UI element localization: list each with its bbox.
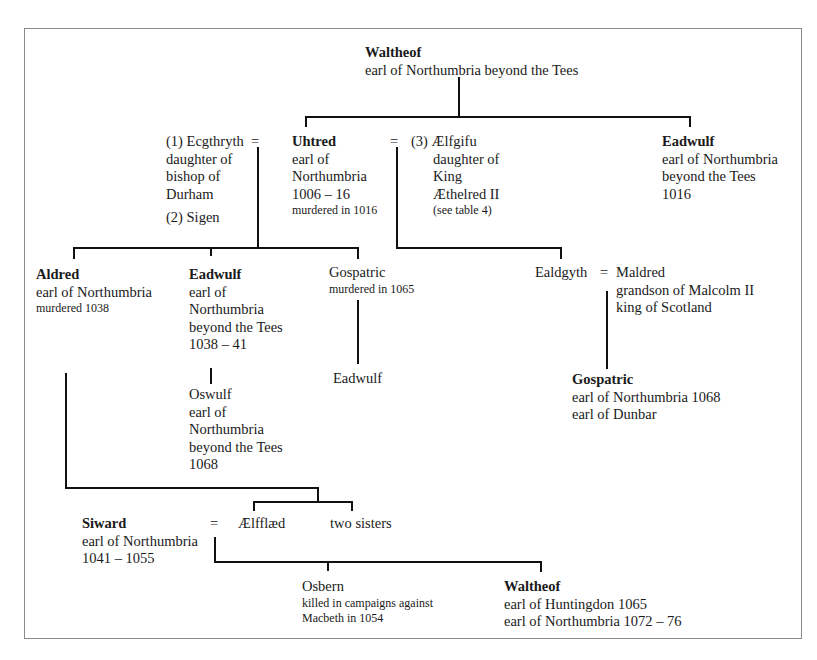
line-to-aelfflaed — [253, 501, 255, 511]
node-two-sisters: two sisters — [330, 515, 392, 533]
person-detail: earl of Northumbria — [662, 151, 778, 169]
node-gospatric-1068: Gospatric earl of Northumbria 1068 earl … — [572, 371, 721, 424]
person-detail: Northumbria — [189, 421, 283, 439]
line-aldred-children — [65, 373, 67, 489]
person-detail: beyond the Tees — [662, 168, 778, 186]
person-name: Maldred — [616, 264, 754, 282]
node-osbern: Osbern killed in campaigns against Macbe… — [302, 578, 433, 626]
node-waltheof-2: Waltheof earl of Huntingdon 1065 earl of… — [504, 578, 682, 631]
person-name: two sisters — [330, 515, 392, 533]
person-name: Osbern — [302, 578, 433, 596]
node-waltheof-root: Waltheof earl of Northumbria beyond the … — [365, 44, 578, 79]
node-oswulf: Oswulf earl of Northumbria beyond the Te… — [189, 386, 283, 474]
marriage-symbol: = — [390, 133, 398, 151]
person-detail: earl of — [292, 151, 377, 169]
person-detail: 1006 – 16 — [292, 186, 377, 204]
line-ecgthryth-children — [257, 147, 259, 249]
node-gospatric-1065: Gospatric murdered in 1065 — [329, 264, 414, 297]
person-detail: earl of Huntingdon 1065 — [504, 596, 682, 614]
node-uhtred: Uhtred earl of Northumbria 1006 – 16 mur… — [292, 133, 377, 218]
line-to-gospatric-1065 — [357, 247, 359, 259]
person-name: (1) Ecgthryth — [166, 133, 244, 151]
person-title: earl of Northumbria beyond the Tees — [365, 62, 578, 80]
person-name: Waltheof — [365, 44, 578, 62]
person-name: Eadwulf — [333, 370, 382, 388]
person-detail: earl of Dunbar — [572, 406, 721, 424]
person-detail: earl of — [189, 404, 283, 422]
person-detail: earl of Northumbria — [36, 284, 152, 302]
node-ecgthryth: (1) Ecgthryth daughter of bishop of Durh… — [166, 133, 244, 227]
node-eadwulf-1038: Eadwulf earl of Northumbria beyond the T… — [189, 266, 283, 354]
node-aldred: Aldred earl of Northumbria murdered 1038 — [36, 266, 152, 316]
line-siward-children — [214, 537, 216, 563]
line-siward-bar — [214, 561, 542, 563]
person-detail: 1038 – 41 — [189, 336, 283, 354]
person-detail: king of Scotland — [616, 299, 754, 317]
line-root-down — [458, 77, 460, 118]
line-to-uhtred — [305, 116, 307, 127]
person-name: Ælfflæd — [238, 515, 285, 533]
line-aelfgifu-bar — [396, 247, 562, 249]
line-to-waltheof-2 — [540, 561, 542, 572]
node-eadwulf-son: Eadwulf — [333, 370, 382, 388]
line-gen1-bar — [305, 116, 691, 118]
person-detail: Northumbria — [292, 168, 377, 186]
person-detail: earl of Northumbria — [82, 533, 198, 551]
line-to-eadwulf-1016 — [689, 116, 691, 127]
line-eadwulf-to-oswulf — [210, 368, 212, 384]
person-name: Gospatric — [329, 264, 414, 282]
person-detail: Durham — [166, 186, 244, 204]
line-maldred-children — [606, 291, 608, 369]
line-to-ealdgyth — [560, 247, 562, 259]
line-daughters-bar — [253, 501, 353, 503]
person-note: (see table 4) — [411, 203, 499, 218]
person-detail: Northumbria — [189, 301, 283, 319]
node-aelfflaed: Ælfflæd — [238, 515, 285, 533]
marriage-symbol: = — [210, 515, 218, 533]
line-to-two-sisters — [351, 501, 353, 511]
person-note: murdered in 1065 — [329, 282, 414, 297]
marriage-symbol: = — [251, 133, 259, 151]
node-siward: Siward earl of Northumbria 1041 – 1055 — [82, 515, 198, 568]
node-ealdgyth: Ealdgyth — [535, 264, 587, 282]
person-detail: 1041 – 1055 — [82, 550, 198, 568]
person-note: murdered in 1016 — [292, 203, 377, 218]
second-wife-name: (2) Sigen — [166, 209, 244, 227]
line-aldred-bar — [65, 487, 319, 489]
node-aelfgifu: (3) Ælfgifu daughter of King Æthelred II… — [411, 133, 499, 218]
person-name: Oswulf — [189, 386, 283, 404]
person-detail: daughter of — [166, 151, 244, 169]
person-note: Macbeth in 1054 — [302, 611, 433, 626]
person-note: murdered 1038 — [36, 301, 152, 316]
node-maldred: Maldred grandson of Malcolm II king of S… — [616, 264, 754, 317]
person-detail: grandson of Malcolm II — [616, 282, 754, 300]
person-detail: daughter of — [411, 151, 499, 169]
person-detail: earl of Northumbria 1068 — [572, 389, 721, 407]
person-detail: 1068 — [189, 456, 283, 474]
person-detail: bishop of — [166, 168, 244, 186]
person-name: Waltheof — [504, 578, 682, 596]
person-detail: beyond the Tees — [189, 439, 283, 457]
line-gospatric-children — [357, 300, 359, 364]
person-name: Aldred — [36, 266, 152, 284]
person-detail: beyond the Tees — [189, 319, 283, 337]
line-to-aldred — [73, 247, 75, 259]
marriage-symbol: = — [600, 264, 608, 282]
person-name: Uhtred — [292, 133, 377, 151]
person-name: Ealdgyth — [535, 264, 587, 282]
line-to-osbern — [327, 561, 329, 571]
line-aelfgifu-children — [396, 147, 398, 249]
person-detail: 1016 — [662, 186, 778, 204]
line-to-eadwulf-1038 — [210, 247, 212, 256]
person-name: Eadwulf — [189, 266, 283, 284]
person-detail: earl of Northumbria 1072 – 76 — [504, 613, 682, 631]
person-name: Eadwulf — [662, 133, 778, 151]
node-eadwulf-1016: Eadwulf earl of Northumbria beyond the T… — [662, 133, 778, 203]
person-note: killed in campaigns against — [302, 596, 433, 611]
person-detail: Æthelred II — [411, 186, 499, 204]
person-name: (3) Ælfgifu — [411, 133, 499, 151]
person-detail: King — [411, 168, 499, 186]
person-detail: earl of — [189, 284, 283, 302]
person-name: Siward — [82, 515, 198, 533]
person-name: Gospatric — [572, 371, 721, 389]
